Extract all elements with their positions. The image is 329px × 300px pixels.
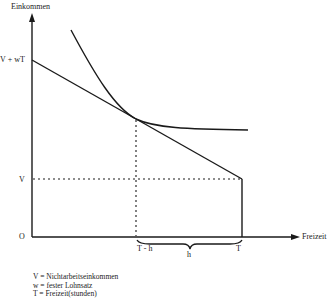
x-tick-t: T (236, 245, 241, 253)
y-tick-v: V (19, 176, 25, 184)
legend-item: T = Freizeit(stunden) (33, 290, 118, 299)
x-axis-label: Freizeit (302, 233, 326, 241)
diagram-canvas (0, 0, 329, 300)
y-tick-v-plus-wt: V + wT (0, 56, 25, 64)
y-axis-arrow-icon (29, 13, 35, 22)
legend: V = Nichtarbeitseinkommen w = fester Loh… (33, 273, 118, 299)
x-tick-h: h (187, 251, 191, 259)
y-axis-label: Einkommen (11, 3, 50, 11)
x-axis-arrow-icon (291, 234, 300, 240)
x-tick-t-minus-h: T - h (137, 245, 152, 253)
indifference-curve (71, 30, 248, 130)
origin-label: O (19, 233, 25, 241)
h-brace (137, 240, 242, 249)
